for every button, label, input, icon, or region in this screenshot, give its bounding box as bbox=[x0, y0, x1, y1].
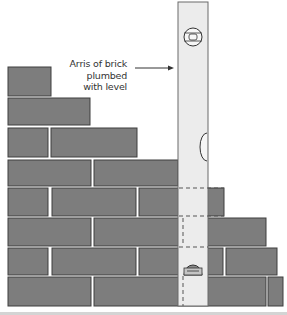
annotation-label: Arris of brick plumbed with level bbox=[70, 58, 127, 93]
annotation-line-2: plumbed bbox=[70, 70, 127, 82]
brick bbox=[52, 188, 136, 216]
top-vial-icon bbox=[184, 28, 202, 46]
brick bbox=[8, 98, 90, 125]
annotation-arrow bbox=[135, 66, 174, 71]
brick bbox=[8, 277, 91, 306]
brick bbox=[268, 277, 283, 306]
brick bbox=[226, 248, 277, 275]
brick bbox=[8, 218, 91, 246]
annotation-line-3: with level bbox=[70, 81, 127, 93]
brick bbox=[94, 160, 178, 186]
brick bbox=[8, 188, 48, 216]
brick bbox=[52, 248, 136, 275]
diagram-canvas: Arris of brick plumbed with level bbox=[0, 0, 287, 315]
brick bbox=[8, 160, 91, 186]
brick bbox=[8, 128, 48, 157]
brick bbox=[51, 128, 137, 157]
brick bbox=[8, 248, 48, 275]
annotation-line-1: Arris of brick bbox=[70, 58, 127, 70]
brick-wall bbox=[8, 67, 283, 306]
brick-wall-diagram bbox=[0, 0, 287, 315]
brick bbox=[8, 67, 51, 96]
